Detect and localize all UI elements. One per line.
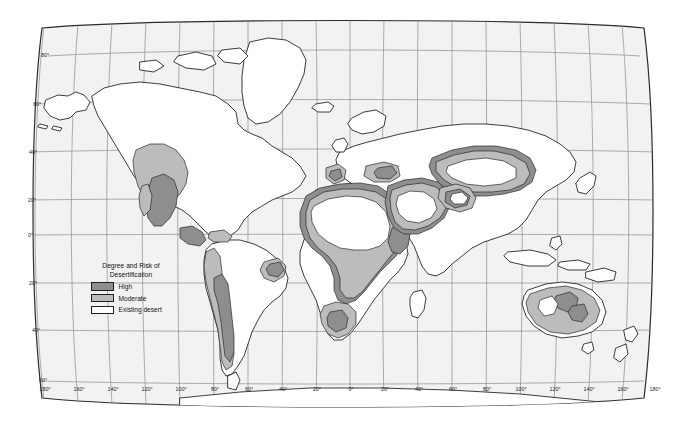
svg-text:80°: 80° (41, 52, 49, 58)
svg-text:100°: 100° (515, 386, 526, 392)
svg-text:40°: 40° (415, 386, 423, 392)
legend-swatch-existing-desert (91, 306, 114, 315)
legend-title: Degree and Risk of Desertification (75, 262, 187, 279)
svg-text:0°: 0° (348, 386, 353, 392)
svg-text:40°: 40° (32, 327, 40, 333)
legend-item-high: High (91, 281, 187, 292)
legend-label-existing-desert: Existing desert (119, 306, 162, 313)
svg-text:180°: 180° (39, 386, 50, 392)
svg-text:120°: 120° (549, 386, 560, 392)
svg-text:60°: 60° (449, 386, 457, 392)
svg-text:80°: 80° (483, 386, 491, 392)
legend-items: High Moderate Existing desert (75, 281, 187, 315)
svg-text:120°: 120° (141, 386, 152, 392)
map-canvas: 80° 60° 40° 20° 0° 20° 40° 60° 180° 160°… (0, 0, 686, 428)
svg-text:140°: 140° (107, 386, 118, 392)
legend-title-line2: Desertification (75, 271, 187, 280)
svg-text:180°: 180° (649, 386, 660, 392)
svg-text:0°: 0° (28, 232, 33, 238)
legend-item-moderate: Moderate (91, 293, 187, 304)
world-desertification-map: 80° 60° 40° 20° 0° 20° 40° 60° 180° 160°… (0, 0, 686, 428)
legend-swatch-moderate (91, 294, 114, 303)
svg-text:160°: 160° (73, 386, 84, 392)
svg-text:140°: 140° (583, 386, 594, 392)
svg-text:40°: 40° (29, 149, 37, 155)
legend-item-existing-desert: Existing desert (91, 305, 187, 316)
svg-text:80°: 80° (211, 386, 219, 392)
svg-text:100°: 100° (175, 386, 186, 392)
map-legend: Degree and Risk of Desertification High … (75, 262, 187, 316)
legend-title-line1: Degree and Risk of (75, 262, 187, 271)
svg-text:20°: 20° (28, 197, 36, 203)
legend-label-moderate: Moderate (119, 295, 147, 302)
svg-text:20°: 20° (381, 386, 389, 392)
legend-label-high: High (119, 283, 133, 290)
svg-text:60°: 60° (245, 386, 253, 392)
svg-text:160°: 160° (617, 386, 628, 392)
svg-text:20°: 20° (29, 280, 37, 286)
svg-text:60°: 60° (39, 377, 47, 383)
svg-text:60°: 60° (33, 101, 41, 107)
svg-text:20°: 20° (313, 386, 321, 392)
legend-swatch-high (91, 282, 114, 291)
svg-text:40°: 40° (279, 386, 287, 392)
